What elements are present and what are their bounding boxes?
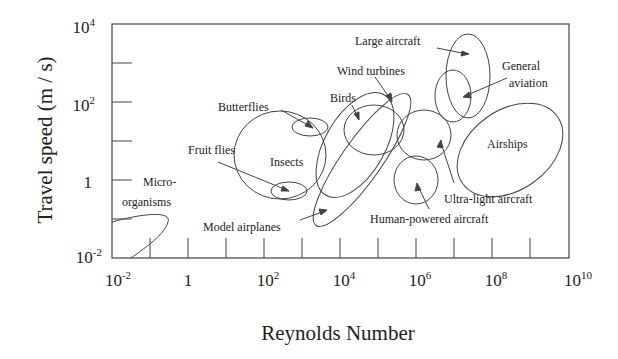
label-human-powered: Human-powered aircraft	[370, 212, 489, 226]
label-butterflies: Butterflies	[218, 100, 269, 114]
svg-text:104: 104	[73, 16, 96, 37]
label-wind-turbines: Wind turbines	[337, 64, 405, 78]
svg-text:1: 1	[84, 173, 93, 192]
region-large-aircraft	[446, 34, 490, 118]
label-micro-2: organisms	[122, 195, 171, 209]
svg-text:10-2: 10-2	[76, 246, 102, 267]
y-axis-title: Travel speed (m / s)	[33, 56, 57, 223]
y-tick-labels: 104 102 1 10-2	[73, 16, 103, 267]
svg-text:10-2: 10-2	[105, 269, 131, 290]
label-micro-1: Micro-	[143, 175, 176, 189]
svg-text:106: 106	[409, 269, 432, 290]
region-micro-organisms	[112, 214, 168, 258]
svg-text:1010: 1010	[564, 269, 593, 290]
label-airships: Airships	[487, 137, 528, 151]
label-general-2: aviation	[509, 76, 548, 90]
label-birds: Birds	[330, 91, 356, 105]
x-axis-title: Reynolds Number	[261, 321, 414, 345]
svg-text:102: 102	[73, 94, 96, 115]
region-wind-turbines	[344, 105, 404, 155]
label-model-airplanes: Model airplanes	[203, 220, 281, 234]
x-tick-labels: 10-2 1 102 104 106 108 1010	[105, 269, 593, 290]
region-labels: Micro- organisms Insects Butterflies Fru…	[122, 34, 548, 234]
label-ultra-light: Ultra-light aircraft	[444, 192, 533, 206]
region-human-powered	[394, 156, 438, 204]
svg-text:102: 102	[257, 269, 280, 290]
flight-regimes-diagram: 104 102 1 10-2 10-2 1 102 104 106 108 10…	[0, 0, 618, 359]
label-insects: Insects	[270, 155, 304, 169]
x-ticks	[150, 238, 530, 258]
label-general-1: General	[502, 59, 541, 73]
label-large-aircraft: Large aircraft	[355, 34, 421, 48]
svg-text:1: 1	[184, 271, 193, 290]
label-fruit-flies: Fruit flies	[188, 143, 235, 157]
svg-text:108: 108	[485, 269, 508, 290]
svg-text:104: 104	[333, 269, 356, 290]
